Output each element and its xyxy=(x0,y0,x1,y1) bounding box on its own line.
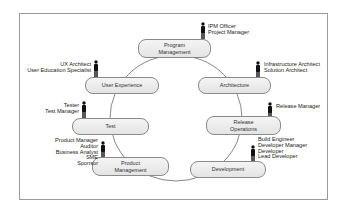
role-label: Lead Developer xyxy=(258,154,307,160)
roles-architecture: Infrastructure Architect Solution Archit… xyxy=(264,62,320,74)
roles-product-management: Product Manager Auditor Business Analyst… xyxy=(55,138,98,167)
role-label: Release Manager xyxy=(276,104,320,110)
node-label-line: Release xyxy=(230,119,257,126)
node-product-management: ProductManagement xyxy=(92,157,169,176)
node-development: Development xyxy=(190,161,266,178)
node-user-experience: User Experience xyxy=(85,77,159,94)
roles-test: Tester Test Manager xyxy=(45,103,79,115)
role-label: User Education Specialist xyxy=(27,68,91,74)
roles-development: Build Engineer Developer Manager Develop… xyxy=(258,137,307,160)
node-release-operations: ReleaseOperations xyxy=(206,116,281,135)
node-label-line: Management xyxy=(114,167,146,174)
node-label-line: Test xyxy=(105,123,115,130)
roles-program-management: IPM Officer Project Manager xyxy=(208,24,249,36)
person-icon xyxy=(255,61,261,78)
node-program-management: ProgramManagement xyxy=(138,39,211,58)
node-label-line: Architecture xyxy=(220,82,249,89)
node-test: Test xyxy=(72,118,149,135)
node-label-line: Management xyxy=(158,49,190,56)
person-icon xyxy=(200,22,206,39)
role-label: Solution Architect xyxy=(264,68,320,74)
node-label-line: Operations xyxy=(230,126,257,133)
person-icon xyxy=(100,141,106,158)
node-label-line: User Experience xyxy=(102,82,143,89)
role-label: Test Manager xyxy=(45,109,79,115)
roles-release-operations: Release Manager xyxy=(276,104,320,110)
person-icon xyxy=(93,60,99,77)
role-label: Sponsor xyxy=(55,161,98,167)
roles-user-experience: UX Architect User Education Specialist xyxy=(27,62,91,74)
person-icon xyxy=(250,145,256,162)
node-architecture: Architecture xyxy=(198,77,271,94)
node-label-line: Development xyxy=(212,166,244,173)
role-label: Project Manager xyxy=(208,30,249,36)
person-icon xyxy=(81,101,87,118)
